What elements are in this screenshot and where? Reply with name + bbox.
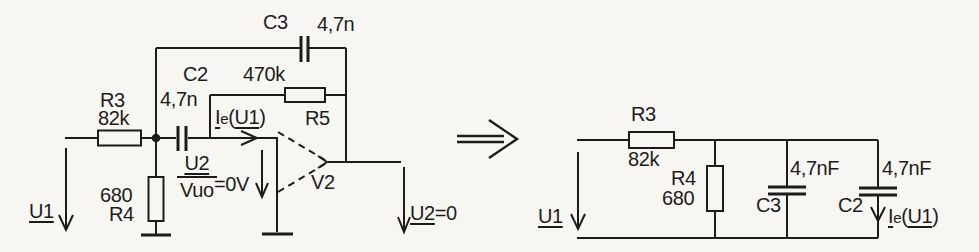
left-c3-label: C3 [263,12,288,33]
c3-capacitor-plates [301,36,308,62]
ie-subscript: e [220,110,228,127]
right-r4-label: R4 [671,168,696,189]
right-u1-label: U1 [538,206,563,227]
output-equals: =0 [435,202,457,224]
fraction-numerator: U2 [184,153,209,173]
ratio-equals-zero: =0V [214,174,249,195]
ie-subscript: e [893,209,901,226]
u1-voltage-arrow [571,152,585,229]
r4-resistor-body [149,177,164,221]
right-c2-value: 4,7nF [882,158,931,179]
right-c3-value: 4,7nF [790,158,839,179]
right-r4-value: 680 [662,188,694,209]
left-r4-label: R4 [109,204,134,225]
left-c2-label: C2 [183,64,208,85]
right-c2-label: C2 [838,195,863,216]
c3-capacitor-plates [768,187,806,194]
right-r3-value: 82k [628,149,659,170]
c2-capacitor-plates [859,188,897,195]
right-ie-current-label: Ie(U1) [888,206,938,227]
left-ie-current-label: Ie(U1) [215,107,265,128]
opamp-apex-mark [318,156,327,168]
r4-resistor-body [707,166,723,211]
left-r3-value: 82k [98,108,129,129]
node-dot [152,134,161,143]
c2-capacitor-plates [178,126,186,151]
r3-resistor-body [629,132,674,148]
r3-resistor-body [98,131,141,146]
ie-paren-close: ) [259,106,265,128]
u2-vuo-fraction: U2 Vuo [177,153,217,200]
output-symbol: U2 [410,202,435,224]
left-c2-value: 4,7n [160,89,197,110]
u1-voltage-arrow [59,148,73,230]
left-r5-label: R5 [305,108,330,129]
r5-resistor-body [285,88,325,102]
ie-paren-close: ) [932,205,938,227]
ie-argument: U1 [234,106,259,128]
u2-output-voltage-arrow [398,167,410,232]
fraction-denominator: Vuo [177,176,217,200]
implies-arrow-icon [457,120,517,158]
opamp-v2-label: V2 [311,172,335,193]
right-wires [577,140,878,238]
vuo-voltage-arrow [256,150,268,197]
u2-output-label: U2=0 [410,203,457,224]
left-u1-label: U1 [29,201,54,222]
left-c3-value: 4,7n [317,14,354,35]
left-r5-value: 470k [243,64,285,85]
right-r3-label: R3 [631,104,656,125]
schematic-drawing [0,0,979,252]
right-circuit [571,132,897,238]
right-c3-label: C3 [756,195,781,216]
ie-argument: U1 [907,205,932,227]
circuit-figure: R3 82k C3 4,7n C2 4,7n 470k R5 Ie(U1) 68… [0,0,979,252]
